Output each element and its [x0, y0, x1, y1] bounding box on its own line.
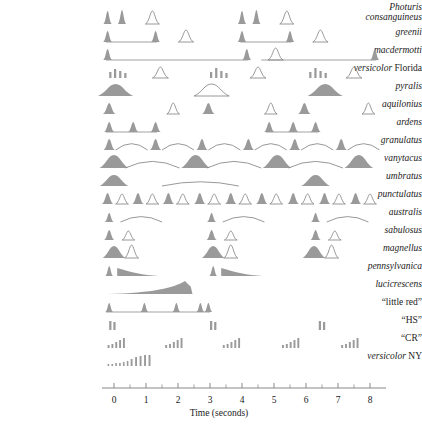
flash-pulse-fill — [119, 363, 121, 366]
axis-tick-label: 0 — [112, 395, 117, 405]
species-row-versicolor-ny: versicolor NY — [0, 344, 422, 368]
axis-tick-label: 2 — [176, 395, 181, 405]
axis-title-label: Time (seconds) — [174, 408, 249, 418]
flash-trace-versicolor-ny — [96, 344, 416, 368]
axis-tick-label: 4 — [240, 395, 245, 405]
flash-pulse-fill — [144, 355, 146, 366]
axis-tick-label: 7 — [336, 395, 341, 405]
flash-pulse-fill — [131, 359, 133, 366]
axis-tick-label: 8 — [368, 395, 373, 405]
flash-pulse-fill — [108, 364, 110, 366]
flash-pulse-fill — [123, 362, 125, 366]
axis-tick-label: 5 — [272, 395, 277, 405]
flash-pulse-fill — [127, 361, 129, 366]
axis-tick-label: 6 — [304, 395, 309, 405]
axis-title: Time (seconds) — [0, 408, 422, 418]
flash-pulse-fill — [135, 357, 137, 366]
time-axis: 012345678 Time (seconds) — [0, 382, 422, 433]
flash-pulse-fill — [111, 364, 113, 366]
axis-tick-label: 3 — [208, 395, 213, 405]
axis-tick-label: 1 — [144, 395, 149, 405]
flash-pulse-fill — [115, 363, 117, 366]
flash-pulse-fill — [140, 356, 142, 366]
axis-ruler: 012345678 — [0, 382, 422, 408]
flash-pulse-fill — [149, 355, 151, 366]
firefly-flash-pattern-figure: Photurisconsanguineusgreeniimacdermottiv… — [0, 0, 422, 433]
